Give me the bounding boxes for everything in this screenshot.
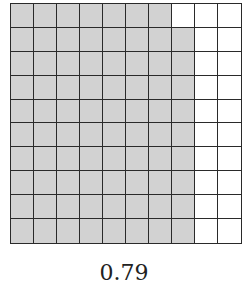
- grid-cell-shaded: [103, 195, 126, 219]
- grid-cell-shaded: [172, 76, 195, 100]
- grid-cell-empty: [195, 123, 218, 147]
- grid-cell-shaded: [103, 76, 126, 100]
- grid-cell-shaded: [126, 171, 149, 195]
- grid-cell-shaded: [126, 28, 149, 52]
- hundred-grid: [10, 3, 242, 244]
- grid-cell-empty: [218, 219, 241, 243]
- grid-cell-shaded: [80, 28, 103, 52]
- grid-cell-shaded: [126, 100, 149, 124]
- grid-cell-empty: [218, 28, 241, 52]
- grid-cell-shaded: [57, 100, 80, 124]
- grid-cell-shaded: [34, 100, 57, 124]
- grid-cell-shaded: [149, 52, 172, 76]
- grid-cell-shaded: [172, 219, 195, 243]
- grid-cell-empty: [195, 28, 218, 52]
- grid-cell-shaded: [80, 123, 103, 147]
- grid-cell-shaded: [126, 123, 149, 147]
- grid-cell-empty: [195, 100, 218, 124]
- grid-cell-shaded: [149, 171, 172, 195]
- grid-cell-shaded: [149, 219, 172, 243]
- grid-cell-shaded: [149, 100, 172, 124]
- grid-cell-shaded: [126, 76, 149, 100]
- grid-cell-empty: [218, 4, 241, 28]
- grid-cell-shaded: [57, 28, 80, 52]
- grid-cell-shaded: [80, 219, 103, 243]
- grid-cell-shaded: [126, 147, 149, 171]
- grid-cell-shaded: [34, 219, 57, 243]
- grid-cell-shaded: [34, 195, 57, 219]
- grid-cell-shaded: [57, 76, 80, 100]
- grid-cell-shaded: [103, 100, 126, 124]
- decimal-caption: 0.79: [0, 262, 248, 284]
- grid-cell-shaded: [80, 52, 103, 76]
- grid-cell-shaded: [172, 28, 195, 52]
- grid-cell-shaded: [103, 147, 126, 171]
- grid-cell-shaded: [126, 195, 149, 219]
- grid-cell-shaded: [11, 195, 34, 219]
- grid-cell-empty: [218, 195, 241, 219]
- grid-cell-shaded: [80, 195, 103, 219]
- grid-cell-shaded: [126, 52, 149, 76]
- grid-cell-empty: [218, 52, 241, 76]
- grid-cell-shaded: [103, 171, 126, 195]
- grid-cell-shaded: [57, 171, 80, 195]
- grid-cell-shaded: [103, 52, 126, 76]
- grid-cell-empty: [195, 147, 218, 171]
- grid-cell-shaded: [172, 147, 195, 171]
- grid-cell-shaded: [80, 76, 103, 100]
- grid-cell-shaded: [57, 4, 80, 28]
- grid-cell-shaded: [172, 52, 195, 76]
- grid-cell-shaded: [172, 100, 195, 124]
- grid-cell-shaded: [11, 100, 34, 124]
- grid-cell-shaded: [34, 52, 57, 76]
- grid-cell-shaded: [11, 28, 34, 52]
- grid-cell-empty: [172, 4, 195, 28]
- grid-cell-shaded: [149, 28, 172, 52]
- grid-cell-shaded: [57, 123, 80, 147]
- grid-cell-empty: [195, 4, 218, 28]
- grid-cell-shaded: [34, 171, 57, 195]
- grid-cell-shaded: [126, 219, 149, 243]
- grid-cell-shaded: [103, 4, 126, 28]
- grid-cell-empty: [195, 76, 218, 100]
- grid-cell-empty: [218, 100, 241, 124]
- grid-cell-shaded: [172, 171, 195, 195]
- grid-cell-shaded: [34, 76, 57, 100]
- grid-cell-shaded: [103, 28, 126, 52]
- grid-cell-shaded: [57, 147, 80, 171]
- grid-cell-empty: [195, 171, 218, 195]
- grid-cell-shaded: [57, 219, 80, 243]
- grid-cell-shaded: [57, 195, 80, 219]
- grid-cell-empty: [218, 76, 241, 100]
- grid-cell-shaded: [80, 171, 103, 195]
- grid-cell-shaded: [149, 147, 172, 171]
- grid-cell-shaded: [11, 219, 34, 243]
- grid-cell-shaded: [172, 123, 195, 147]
- grid-cell-shaded: [80, 100, 103, 124]
- grid-cell-shaded: [80, 4, 103, 28]
- grid-cell-shaded: [149, 123, 172, 147]
- grid-cell-shaded: [126, 4, 149, 28]
- grid-cell-shaded: [11, 4, 34, 28]
- grid-cell-empty: [195, 52, 218, 76]
- grid-cell-empty: [195, 195, 218, 219]
- grid-cell-shaded: [11, 171, 34, 195]
- grid-cell-shaded: [149, 195, 172, 219]
- grid-cell-shaded: [34, 28, 57, 52]
- grid-cell-empty: [218, 171, 241, 195]
- grid-cell-shaded: [11, 123, 34, 147]
- grid-cell-shaded: [11, 52, 34, 76]
- grid-cell-shaded: [57, 52, 80, 76]
- grid-cell-empty: [218, 147, 241, 171]
- grid-cell-shaded: [80, 147, 103, 171]
- grid-cell-shaded: [172, 195, 195, 219]
- grid-cell-shaded: [149, 4, 172, 28]
- grid-cell-shaded: [34, 4, 57, 28]
- grid-cell-shaded: [11, 76, 34, 100]
- grid-cell-empty: [195, 219, 218, 243]
- grid-cell-shaded: [34, 123, 57, 147]
- grid-cell-shaded: [149, 76, 172, 100]
- grid-cell-empty: [218, 123, 241, 147]
- grid-cell-shaded: [103, 219, 126, 243]
- grid-cell-shaded: [103, 123, 126, 147]
